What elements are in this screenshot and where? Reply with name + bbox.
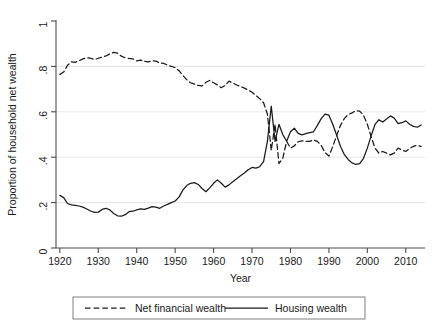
gridlines-group [56,66,425,202]
x-tick-label: 2010 [394,255,418,267]
y-tick-label: 0 [37,249,49,255]
x-tick-label: 2000 [356,255,380,267]
legend-label-housing-wealth: Housing wealth [275,302,347,314]
series-housing-wealth [60,106,421,216]
line-chart: 0.2.4.6.81 19201930194019501960197019801… [0,0,438,333]
y-tick-label: .4 [37,156,49,165]
y-tick-label: .6 [37,111,49,120]
y-axis-ticks: 0.2.4.6.81 [37,21,56,255]
x-tick-label: 1970 [240,255,264,267]
series-net-financial-wealth [60,52,421,163]
legend-label-net-financial-wealth: Net financial wealth [135,302,226,314]
y-tick-label: .2 [37,202,49,211]
axes-group [56,20,425,248]
y-tick-label: .8 [37,65,49,74]
chart-figure: 0.2.4.6.81 19201930194019501960197019801… [0,0,438,333]
x-tick-label: 1950 [163,255,187,267]
y-tick-label: 1 [37,22,49,28]
x-tick-label: 1930 [87,255,111,267]
series-group [60,52,421,216]
x-axis-ticks: 1920193019401950196019701980199020002010 [48,248,417,267]
x-axis-title: Year [230,272,252,284]
x-tick-label: 1960 [202,255,226,267]
chart-legend: Net financial wealthHousing wealth [73,297,365,319]
x-tick-label: 1920 [48,255,72,267]
x-tick-label: 1980 [279,255,303,267]
y-axis-title: Proportion of household net wealth [6,53,18,215]
x-tick-label: 1990 [317,255,341,267]
x-tick-label: 1940 [125,255,149,267]
